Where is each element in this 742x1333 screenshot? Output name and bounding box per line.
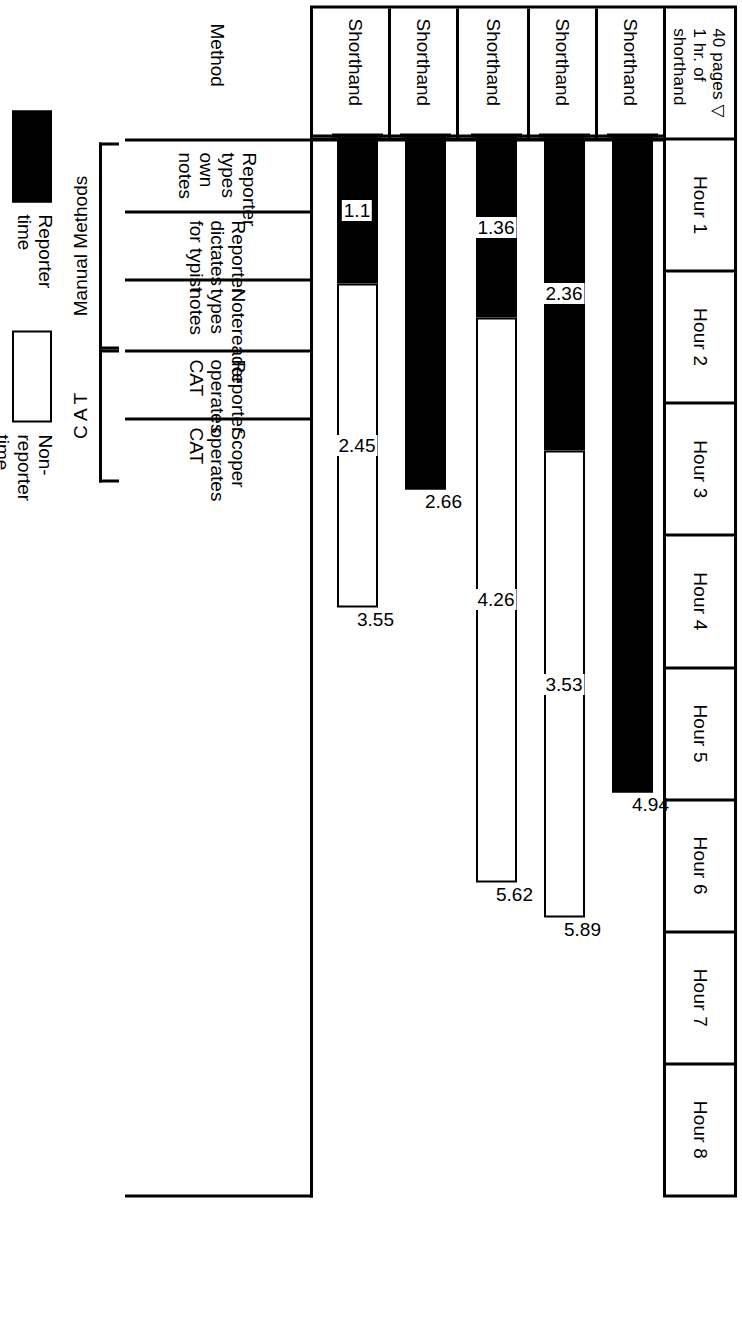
bar-origin-tick bbox=[400, 133, 451, 137]
method-description-cell: Notereader types notes bbox=[125, 278, 310, 359]
hour-label: Hour 6 bbox=[689, 836, 711, 894]
bar-origin-tick bbox=[539, 133, 590, 137]
hour-label: Hour 1 bbox=[689, 175, 711, 233]
group-label: C A T bbox=[70, 349, 92, 482]
group-bracket-tick bbox=[99, 349, 119, 352]
method-description-cell: Reporter operates CAT bbox=[125, 349, 310, 427]
shorthand-cell: Shorthand bbox=[595, 8, 663, 140]
shorthand-label: Shorthand bbox=[482, 18, 504, 106]
hours-header-table: 40 pages ▽ 1 hr. of shorthand Hour 1 Hou… bbox=[663, 5, 737, 1197]
bar-origin-tick bbox=[471, 133, 522, 137]
method-description-cell: Reporter types own notes bbox=[125, 142, 310, 220]
hour-cell-6: Hour 6 bbox=[666, 801, 734, 933]
legend-reporter-swatch bbox=[12, 110, 52, 202]
method-description-text: Scoper operates CAT bbox=[186, 427, 250, 501]
bar-total-label: 5.62 bbox=[497, 884, 534, 903]
method-cell-divider bbox=[125, 417, 310, 420]
unit-note-text: 40 pages ▽ 1 hr. of shorthand bbox=[670, 28, 727, 118]
hour-cell-2: Hour 2 bbox=[666, 272, 734, 404]
bar-total-label: 5.89 bbox=[565, 920, 602, 939]
group-bracket-tick bbox=[99, 479, 119, 482]
shorthand-cell: Shorthand bbox=[323, 8, 388, 140]
bar-value-label-non-reporter: 4.26 bbox=[476, 589, 517, 610]
group-bracket bbox=[99, 349, 102, 482]
bar-value-label-non-reporter: 3.53 bbox=[544, 673, 585, 694]
hour-cell-4: Hour 4 bbox=[666, 536, 734, 668]
bar-total-label: 4.94 bbox=[633, 794, 670, 813]
shorthand-label: Shorthand bbox=[345, 18, 367, 106]
bar-value-label-non-reporter: 2.45 bbox=[337, 435, 378, 456]
method-column-header: Method bbox=[125, 13, 310, 141]
hour-label: Hour 4 bbox=[689, 572, 711, 630]
method-cell-divider bbox=[125, 349, 310, 352]
unit-note-cell: 40 pages ▽ 1 hr. of shorthand bbox=[666, 8, 734, 140]
method-cell-divider bbox=[125, 278, 310, 281]
method-description-cell: Reporter dictates for typist bbox=[125, 210, 310, 288]
shorthand-cell: Shorthand bbox=[388, 8, 456, 140]
hour-cell-7: Hour 7 bbox=[666, 933, 734, 1065]
group-bracket-tick bbox=[99, 142, 119, 145]
bar-total-label: 2.66 bbox=[426, 492, 463, 511]
hour-label: Hour 8 bbox=[689, 1100, 711, 1158]
method-cell-divider bbox=[125, 210, 310, 213]
bar-segment-reporter-time bbox=[405, 137, 446, 489]
bar-segment-reporter-time bbox=[612, 137, 653, 792]
hour-cell-1: Hour 1 bbox=[666, 140, 734, 272]
method-top-rule bbox=[310, 5, 313, 1197]
bar-value-label-reporter: 2.36 bbox=[544, 283, 585, 304]
bar-total-label: 3.55 bbox=[358, 610, 395, 629]
legend-reporter-label: Reporter time bbox=[13, 214, 56, 288]
method-column-header-text: Method bbox=[207, 23, 229, 86]
method-description-cell: Scoper operates CAT bbox=[125, 417, 310, 492]
hour-cell-8: Hour 8 bbox=[666, 1065, 734, 1194]
shorthand-label: Shorthand bbox=[552, 18, 574, 106]
hour-label: Hour 5 bbox=[689, 704, 711, 762]
hour-label: Hour 3 bbox=[689, 440, 711, 498]
shorthand-cell: Shorthand bbox=[527, 8, 595, 140]
group-bracket bbox=[99, 142, 102, 349]
bar-value-label-reporter: 1.1 bbox=[342, 199, 372, 220]
hour-cell-5: Hour 5 bbox=[666, 669, 734, 801]
shorthand-cell: Shorthand bbox=[456, 8, 527, 140]
plot-area: 4.942.363.535.891.364.265.622.661.12.453… bbox=[313, 137, 663, 1197]
bar-origin-tick bbox=[332, 133, 383, 137]
bar-value-label-reporter: 1.36 bbox=[476, 217, 517, 238]
legend-non-reporter-label: Non- reporter time bbox=[0, 434, 56, 501]
figure-stage: Transcription Time 40 pages ▽ 1 hr. of s… bbox=[0, 0, 742, 1333]
hour-label: Hour 7 bbox=[689, 968, 711, 1026]
legend-non-reporter-swatch bbox=[12, 330, 52, 422]
method-right-rule bbox=[125, 1194, 313, 1197]
shorthand-label: Shorthand bbox=[413, 18, 435, 106]
hour-cell-3: Hour 3 bbox=[666, 404, 734, 536]
method-block: Method Reporter types own notesReporter … bbox=[125, 5, 313, 1197]
group-label: Manual Methods bbox=[70, 142, 92, 349]
bar-origin-tick bbox=[607, 133, 658, 137]
shorthand-label: Shorthand bbox=[620, 18, 642, 106]
shorthand-unit-strip: ShorthandShorthandShorthandShorthandShor… bbox=[313, 5, 663, 137]
hour-label: Hour 2 bbox=[689, 308, 711, 366]
